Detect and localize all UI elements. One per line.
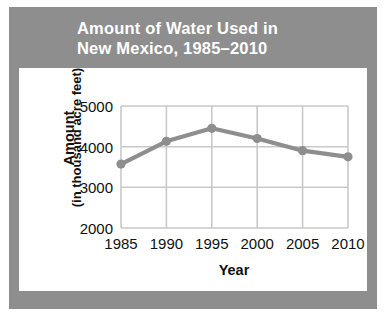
plot-area: 5000 4000 3000 2000 1985 1990 1995 2000 … [19,68,367,291]
x-axis-title: Year [219,262,250,278]
data-point-1985 [116,160,125,169]
y-tick-3000: 3000 [80,179,113,196]
chart-figure: Amount of Water Used in New Mexico, 1985… [0,0,386,318]
title-banner: Amount of Water Used in New Mexico, 1985… [9,7,377,68]
data-point-1990 [162,137,171,146]
data-point-2005 [298,146,307,155]
x-tick-2010: 2010 [331,235,364,252]
data-point-2000 [253,134,262,143]
y-tick-labels: 5000 4000 3000 2000 [80,98,113,237]
y-tick-4000: 4000 [80,139,113,156]
chart-panel: Amount (in thousand acre feet) 5000 4000… [19,68,367,291]
chart-title-line-2: New Mexico, 1985–2010 [77,38,309,58]
y-tick-5000: 5000 [80,98,113,115]
x-tick-1995: 1995 [195,235,228,252]
x-tick-1985: 1985 [104,235,137,252]
x-tick-1990: 1990 [150,235,183,252]
x-tick-2005: 2005 [286,235,319,252]
grid-lines [121,106,348,228]
x-tick-2000: 2000 [241,235,274,252]
data-point-2010 [343,152,352,161]
data-point-1995 [207,124,216,133]
chart-title-line-1: Amount of Water Used in [77,18,309,38]
x-tick-labels: 1985 1990 1995 2000 2005 2010 [104,235,364,252]
